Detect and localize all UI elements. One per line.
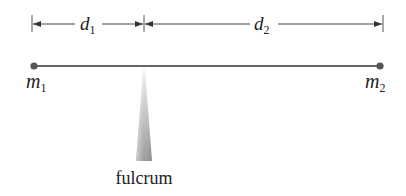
label-m2: m2 [365, 70, 385, 95]
label-m1: m1 [26, 70, 46, 95]
fulcrum-icon [136, 70, 152, 161]
mass-m1-dot [30, 62, 37, 69]
dimension-d1: d1 [33, 13, 143, 37]
lever-diagram: d1 d2 m1 m2 fulcrum [0, 0, 406, 196]
fulcrum-label: fulcrum [116, 168, 173, 188]
label-d2: d2 [254, 13, 270, 37]
dimension-d2: d2 [145, 13, 382, 37]
mass-m2-dot [376, 62, 383, 69]
label-d1: d1 [80, 13, 96, 37]
